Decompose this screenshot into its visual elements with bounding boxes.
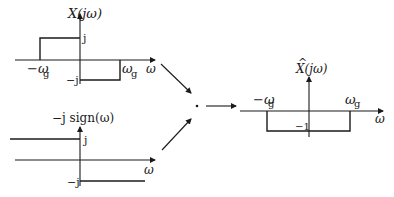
tick-left-sub: g bbox=[268, 98, 275, 109]
hilbert-response-graph: −j sign(ω) j −j ω bbox=[10, 111, 155, 189]
level-neg-label: −1 bbox=[295, 121, 310, 132]
x-axis-label: ω bbox=[146, 62, 156, 76]
level-pos-label: j bbox=[82, 134, 87, 147]
tick-right-sub: g bbox=[131, 68, 138, 79]
negative-j-segment bbox=[80, 60, 120, 80]
graph-title: X(jω) bbox=[295, 62, 328, 76]
level-neg-label: −j bbox=[67, 176, 80, 189]
multiply-dot bbox=[196, 105, 199, 108]
x-axis-label: ω bbox=[375, 112, 385, 126]
level-neg-label: −j bbox=[66, 74, 79, 87]
tick-left-sub: g bbox=[43, 68, 50, 79]
level-pos-label: j bbox=[81, 32, 86, 45]
graph-title: −j sign(ω) bbox=[52, 111, 114, 125]
arrow-from-input bbox=[161, 64, 191, 93]
output-spectrum-graph: ^ X(jω) −1 −ω g ω g ω bbox=[240, 56, 385, 137]
x-axis-label: ω bbox=[144, 163, 154, 177]
combining-arrows bbox=[161, 64, 236, 150]
arrow-from-hilbert bbox=[162, 119, 191, 150]
tick-right-sub: g bbox=[354, 98, 361, 109]
graph-title: X(jω) bbox=[67, 6, 102, 21]
hilbert-diagram: X(jω) j −j −ω g ω g ω −j sign(ω) j −j ω … bbox=[0, 0, 394, 197]
input-spectrum-graph: X(jω) j −j −ω g ω g ω bbox=[15, 6, 156, 87]
positive-j-segment bbox=[40, 38, 80, 60]
